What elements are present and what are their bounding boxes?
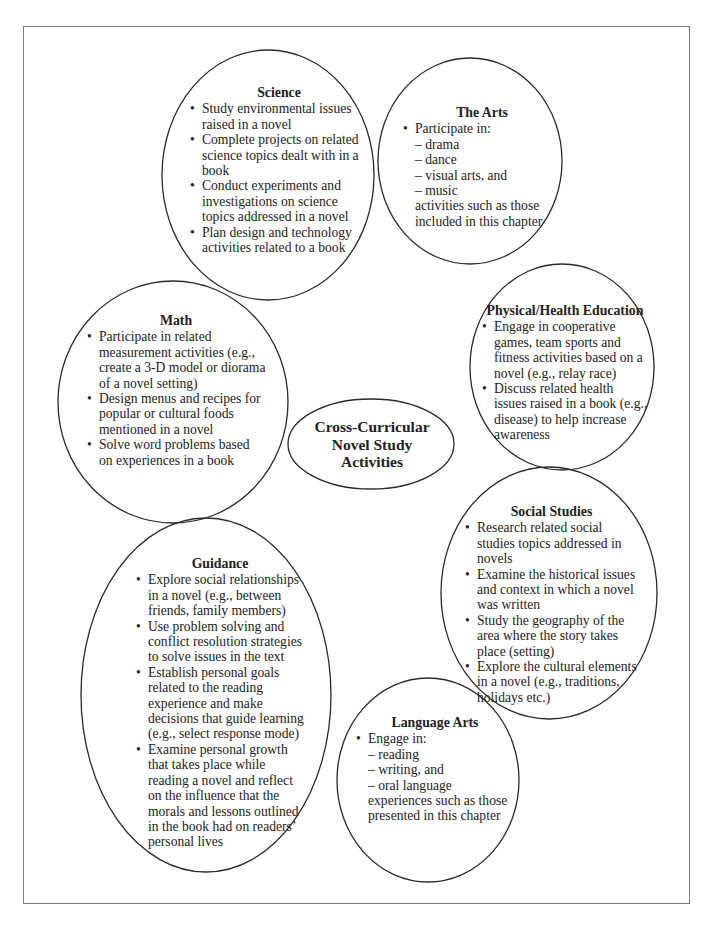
science-title: Science xyxy=(189,85,369,100)
list-item: Engage in cooperative games, team sports… xyxy=(481,319,649,381)
list-item: Solve word problems based on experiences… xyxy=(86,437,266,468)
arts-tail: activities such as those xyxy=(402,198,562,213)
language-arts-subitem: – oral language xyxy=(355,778,515,793)
list-item: Study the geography of the area where th… xyxy=(464,613,639,659)
language-arts-subitem: – writing, and xyxy=(355,762,515,777)
social-studies-node: Social Studies Research related social s… xyxy=(464,504,639,705)
list-item: Engage in: xyxy=(355,731,515,746)
language-arts-tail: presented in this chapter xyxy=(355,808,515,823)
list-item: Study environmental issues raised in a n… xyxy=(189,101,369,132)
phys-health-list: Engage in cooperative games, team sports… xyxy=(481,319,649,442)
list-item: Plan design and technology activities re… xyxy=(189,225,369,256)
science-list: Study environmental issues raised in a n… xyxy=(189,101,369,255)
arts-node: The Arts Participate in: – drama – dance… xyxy=(402,105,562,229)
list-item: Participate in related measurement activ… xyxy=(86,329,266,391)
arts-tail: included in this chapter xyxy=(402,214,562,229)
arts-subitem: – drama xyxy=(402,137,562,152)
math-list: Participate in related measurement activ… xyxy=(86,329,266,468)
social-studies-title: Social Studies xyxy=(464,504,639,519)
language-arts-list: Engage in: xyxy=(355,731,515,746)
guidance-list: Explore social relationships in a novel … xyxy=(135,572,305,849)
list-item: Examine the historical issues and contex… xyxy=(464,567,639,613)
guidance-node: Guidance Explore social relationships in… xyxy=(135,556,305,850)
list-item: Design menus and recipes for popular or … xyxy=(86,391,266,437)
guidance-title: Guidance xyxy=(135,556,305,571)
language-arts-title: Language Arts xyxy=(355,715,515,730)
arts-title: The Arts xyxy=(402,105,562,120)
list-item: Establish personal goals related to the … xyxy=(135,665,305,742)
arts-subitem: – dance xyxy=(402,152,562,167)
phys-health-node: Physical/Health Education Engage in coop… xyxy=(481,303,649,443)
arts-subitem: – music xyxy=(402,183,562,198)
center-title: Cross-Curricular Novel Study Activities xyxy=(292,418,452,471)
language-arts-node: Language Arts Engage in: – reading – wri… xyxy=(355,715,515,824)
phys-health-title: Physical/Health Education xyxy=(481,303,649,318)
list-item: Use problem solving and conflict resolut… xyxy=(135,619,305,665)
list-item: Participate in: xyxy=(402,121,562,136)
list-item: Examine personal growth that takes place… xyxy=(135,742,305,850)
arts-subitem: – visual arts, and xyxy=(402,168,562,183)
list-item: Discuss related health issues raised in … xyxy=(481,381,649,443)
list-item: Explore social relationships in a novel … xyxy=(135,572,305,618)
language-arts-tail: experiences such as those xyxy=(355,793,515,808)
list-item: Explore the cultural elements in a novel… xyxy=(464,659,639,705)
math-title: Math xyxy=(86,313,266,328)
arts-list: Participate in: xyxy=(402,121,562,136)
math-node: Math Participate in related measurement … xyxy=(86,313,266,468)
science-node: Science Study environmental issues raise… xyxy=(189,85,369,255)
language-arts-subitem: – reading xyxy=(355,747,515,762)
list-item: Research related social studies topics a… xyxy=(464,520,639,566)
social-studies-list: Research related social studies topics a… xyxy=(464,520,639,705)
list-item: Conduct experiments and investigations o… xyxy=(189,178,369,224)
list-item: Complete projects on related science top… xyxy=(189,132,369,178)
